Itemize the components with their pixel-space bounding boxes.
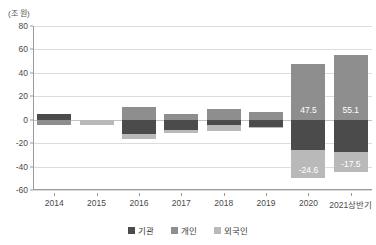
bar-group[interactable]	[118, 26, 160, 190]
bar-group[interactable]	[203, 26, 245, 190]
legend-label: 기관	[138, 224, 154, 236]
gridline	[33, 190, 372, 191]
bar-segment[interactable]	[207, 125, 241, 131]
bar-series-container: 47.5-24.655.1-17.5	[33, 26, 372, 190]
y-axis-tick-label: 60	[19, 44, 33, 54]
legend-label: 개인	[181, 224, 197, 236]
y-axis-tick-label: 0	[23, 115, 33, 125]
bar-group[interactable]	[75, 26, 117, 190]
x-tick-mark	[224, 193, 225, 196]
legend-swatch-icon	[171, 227, 178, 234]
x-tick-mark	[351, 193, 352, 196]
bar-group[interactable]	[160, 26, 202, 190]
y-axis-tick-label: 80	[19, 21, 33, 31]
unit-label: (조 원)	[8, 7, 30, 18]
x-axis-tick-label: 2017	[172, 198, 191, 208]
x-tick-mark	[308, 193, 309, 196]
bar-value-label: -17.5	[341, 160, 360, 169]
bar-segment[interactable]	[80, 120, 114, 125]
bar-segment[interactable]	[249, 127, 283, 128]
legend-item[interactable]: 기관	[128, 224, 154, 236]
bar-segment[interactable]	[334, 120, 368, 152]
legend-swatch-icon	[128, 227, 135, 234]
bar-segment[interactable]	[122, 134, 156, 139]
bar-segment[interactable]	[249, 112, 283, 119]
bar-group[interactable]: 55.1-17.5	[330, 26, 372, 190]
bar-value-label: 47.5	[300, 106, 317, 115]
bar-segment[interactable]	[291, 120, 325, 150]
x-axis-tick-label: 2016	[129, 198, 148, 208]
legend-item[interactable]: 외국인	[214, 224, 248, 236]
bar-value-label: 55.1	[343, 106, 360, 115]
bar-segment[interactable]	[164, 130, 198, 132]
chart-legend: 기관개인외국인	[0, 224, 376, 236]
x-axis-labels: 20142015201620172018201920202021상반기	[33, 193, 372, 213]
x-tick-mark	[54, 193, 55, 196]
bar-segment[interactable]	[249, 120, 283, 128]
y-axis-tick-label: -40	[16, 162, 33, 172]
bar-segment[interactable]	[122, 107, 156, 120]
x-tick-mark	[266, 193, 267, 196]
bar-group[interactable]: 47.5-24.6	[287, 26, 329, 190]
bar-value-label: -24.6	[299, 166, 318, 175]
y-axis-tick-label: -20	[16, 138, 33, 148]
bar-group[interactable]	[245, 26, 287, 190]
bar-segment[interactable]	[207, 109, 241, 120]
x-axis-tick-label: 2014	[45, 198, 64, 208]
x-tick-mark	[181, 193, 182, 196]
bar-segment[interactable]	[37, 120, 71, 125]
x-axis-tick-label: 2021상반기	[329, 198, 372, 210]
plot-area: 806040200-20-40-60 47.5-24.655.1-17.5	[33, 26, 372, 190]
y-axis-tick-label: 40	[19, 68, 33, 78]
x-axis-tick-label: 2020	[299, 198, 318, 208]
legend-label: 외국인	[224, 224, 248, 236]
x-axis-tick-label: 2015	[87, 198, 106, 208]
legend-swatch-icon	[214, 227, 221, 234]
legend-item[interactable]: 개인	[171, 224, 197, 236]
bar-segment[interactable]	[164, 120, 198, 131]
y-axis-tick-label: 20	[19, 91, 33, 101]
x-tick-mark	[139, 193, 140, 196]
bar-group[interactable]	[33, 26, 75, 190]
x-tick-mark	[97, 193, 98, 196]
bar-segment[interactable]	[122, 120, 156, 134]
y-axis-tick-label: -60	[16, 185, 33, 195]
x-axis-tick-label: 2018	[214, 198, 233, 208]
x-axis-tick-label: 2019	[257, 198, 276, 208]
